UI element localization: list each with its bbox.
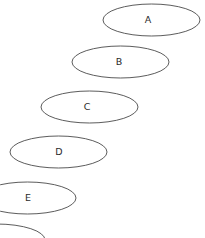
ellipse-label-d: D: [55, 146, 62, 157]
ellipse-label-e: E: [25, 192, 31, 203]
ellipse-label-a: A: [145, 14, 152, 25]
diagram-canvas: ABCDE: [0, 0, 205, 238]
ellipse-label-b: B: [116, 56, 123, 67]
ellipse-label-c: C: [84, 101, 91, 112]
ellipse-cascade-diagram: ABCDE: [0, 0, 205, 238]
